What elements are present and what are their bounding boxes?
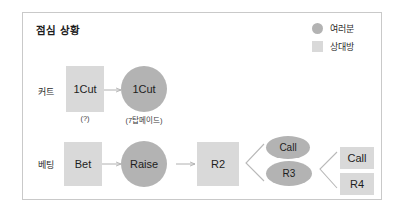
node-raise[interactable]: Raise (121, 141, 167, 187)
legend-label-opponent: 상대방 (330, 40, 354, 53)
node-cut-you[interactable]: 1Cut (121, 66, 167, 112)
caption-cut-opponent: (?) (66, 114, 104, 123)
node-r3[interactable]: R3 (266, 161, 312, 186)
page-title: 점심 상황 (36, 22, 80, 37)
node-r2[interactable]: R2 (197, 142, 239, 186)
circle-swatch-icon (312, 23, 323, 34)
legend: 여러분 상대방 (312, 20, 392, 56)
square-swatch-icon (312, 41, 323, 52)
legend-item-you: 여러분 (312, 20, 392, 36)
row-label-cut: 커트 (38, 85, 54, 98)
node-call-top[interactable]: Call (266, 136, 310, 159)
node-r4[interactable]: R4 (340, 173, 374, 195)
legend-item-opponent: 상대방 (312, 38, 392, 54)
diagram-canvas: 점심 상황 여러분 상대방 커트 베팅 1Cut (?) 1Cu (0, 0, 402, 214)
node-bet[interactable]: Bet (64, 142, 102, 186)
caption-cut-you: (7탑메이드) (117, 114, 171, 125)
node-call-right[interactable]: Call (340, 147, 374, 169)
node-cut-opponent[interactable]: 1Cut (66, 66, 104, 112)
legend-label-you: 여러분 (330, 22, 354, 35)
row-label-bet: 베팅 (38, 158, 54, 171)
